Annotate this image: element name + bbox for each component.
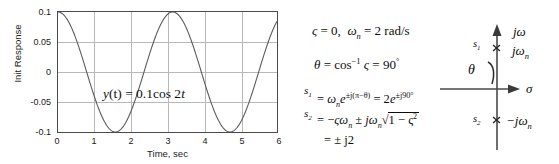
s1-exponent-2: ±j90° xyxy=(395,91,413,100)
s1-omega: ω xyxy=(327,92,336,106)
pole-s1-value: jω xyxy=(512,43,525,58)
zeta-value: = 0, xyxy=(317,23,341,38)
x-tick-label-3: 3 xyxy=(158,137,178,146)
pole-s1-value-label: jωn xyxy=(512,43,529,61)
pole-s1-value-subscript: n xyxy=(525,51,529,61)
pole-s2-value-label: −jωn xyxy=(506,113,532,131)
x-tick-label-1: 1 xyxy=(84,137,104,146)
radicand-expression: 1 − ς xyxy=(389,113,414,127)
annotation-var: t xyxy=(181,86,185,101)
y-tick-label-4: -0.1 xyxy=(5,128,51,137)
s-result-text: = ± j2 xyxy=(324,133,354,147)
radicand: 1 − ς2 xyxy=(388,112,420,127)
s2-plus-minus: ± xyxy=(352,113,365,127)
theta-text: θ xyxy=(468,62,475,77)
pole-s1-label: s1 xyxy=(473,38,481,51)
theta-degree-symbol: ° xyxy=(396,57,399,66)
x-tick-label-5: 5 xyxy=(232,137,252,146)
imaginary-axis-label: jω xyxy=(513,24,526,40)
pole-s2-value: −jω xyxy=(506,113,528,128)
s-plane-axes xyxy=(440,0,559,164)
pole-s2-subscript: 2 xyxy=(477,119,480,126)
pole-s2-value-subscript: n xyxy=(528,121,532,131)
equation-theta: θ = cos−1 ς = 90° xyxy=(314,56,399,73)
equation-damping-ratio: ς = 0, ωn = 2 rad/s xyxy=(312,23,410,41)
j-omega-text: jω xyxy=(513,24,526,39)
pole-s1-subscript: 1 xyxy=(477,44,480,51)
annotation-arg: (t) xyxy=(109,86,122,101)
theta-equals: = cos xyxy=(320,57,351,72)
theta-angle-label: θ xyxy=(468,62,475,78)
omega-n-value: = 2 rad/s xyxy=(361,23,410,38)
pole-s2-label: s2 xyxy=(473,113,481,126)
s1-mid: = 2 xyxy=(370,92,390,106)
s1-subscript: 1 xyxy=(308,91,312,99)
s-plane-diagram: jω s1 jωn θ σ s2 −jωn xyxy=(440,0,559,164)
y-axis-label: Init Response xyxy=(12,9,23,99)
annotation-equals: = 0.1 xyxy=(122,86,153,101)
theta-result: = 90 xyxy=(369,57,396,72)
x-tick-label-4: 4 xyxy=(195,137,215,146)
equation-s2: = −ςωn ± jωn√1 − ς2 xyxy=(317,112,419,130)
theta-arc xyxy=(488,62,494,84)
plot-area xyxy=(57,11,278,133)
x-tick-label-6: 6 xyxy=(269,137,289,146)
y-tick-label-3: -0.05 xyxy=(5,98,51,107)
radicand-exponent: 2 xyxy=(413,112,417,121)
s2-subscript: 2 xyxy=(308,114,312,122)
s1-rhs-prefix: = xyxy=(317,92,327,106)
y-tick-label-1: 0.05 xyxy=(5,38,51,47)
x-tick-label-2: 2 xyxy=(121,137,141,146)
annotation-func: cos 2 xyxy=(153,86,181,101)
imaginary-axis-arrowhead xyxy=(493,24,502,36)
x-tick-label-0: 0 xyxy=(47,137,67,146)
equation-s-result: = ± j2 xyxy=(324,133,354,148)
equation-s1: = ωne±j(π−θ) = 2e±j90° xyxy=(317,91,414,109)
real-axis-label: σ xyxy=(526,81,532,97)
theta-inverse-exponent: −1 xyxy=(352,56,361,66)
init-response-chart: Init Response 0.1 0.05 0 -0.05 -0.1 0 1 … xyxy=(0,0,290,164)
real-axis-arrowhead xyxy=(508,85,520,94)
s2-omega-2: ω xyxy=(369,113,378,127)
omega-n-symbol: ω xyxy=(347,23,356,38)
s2-left-hand-side: s2 xyxy=(304,107,312,122)
y-tick-label-2: 0 xyxy=(5,68,51,77)
s2-rhs-prefix: = − xyxy=(317,113,334,127)
x-axis-label: Time, sec xyxy=(57,148,278,159)
curve-equation-annotation: y(t) = 0.1cos 2t xyxy=(103,86,185,102)
s1-left-hand-side: s1 xyxy=(304,84,312,99)
y-tick-label-0: 0.1 xyxy=(5,8,51,17)
s2-omega: ω xyxy=(339,113,348,127)
s1-exponent: ±j(π−θ) xyxy=(346,91,371,100)
theta-zeta: ς xyxy=(361,57,370,72)
sigma-text: σ xyxy=(526,81,532,96)
response-curve xyxy=(58,12,277,132)
